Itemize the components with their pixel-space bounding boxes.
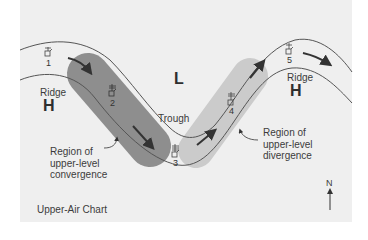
trough-label: Trough [158, 113, 189, 124]
north-label: N [326, 178, 333, 189]
convergence-annotation: Region of upper-level convergence [50, 146, 107, 181]
divergence-annotation: Region of upper-level divergence [263, 127, 312, 162]
station-model-icon-1 [45, 47, 52, 56]
flow-arrow-5 [303, 53, 329, 64]
left-high-symbol: H [43, 97, 55, 115]
divergence-pointer [240, 130, 258, 140]
low-symbol: L [174, 70, 184, 88]
station-label-1: 1 [46, 58, 51, 68]
chart-title: Upper-Air Chart [37, 204, 107, 215]
right-high-symbol: H [290, 82, 302, 100]
station-label-3: 3 [173, 158, 178, 168]
station-model-icon-3 [172, 144, 179, 157]
station-model-icon-5 [286, 43, 293, 54]
station-label-2: 2 [110, 98, 115, 108]
station-label-4: 4 [229, 106, 234, 116]
station-label-5: 5 [287, 55, 292, 65]
